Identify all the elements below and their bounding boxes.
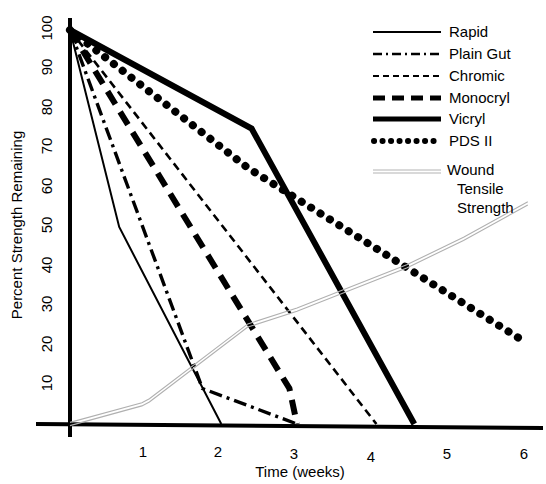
x-tick-label: 3 [290, 445, 298, 462]
x-axis-line [36, 424, 543, 428]
legend-item-wound-tensile-strength: Wound Tensile Strength [373, 161, 514, 216]
chart-container: 100 90 80 70 60 50 40 30 20 10 Percent S… [0, 0, 546, 484]
legend-item-pds-ii: PDS II [374, 132, 492, 149]
legend-item-plain-gut: Plain Gut [373, 45, 512, 62]
legend-label: PDS II [449, 132, 492, 149]
legend-item-vicryl: Vicryl [373, 110, 485, 127]
series-line [70, 30, 376, 424]
x-tick-label: 5 [443, 445, 451, 462]
legend-item-monocryl: Monocryl [373, 89, 510, 106]
x-axis-title: Time (weeks) [255, 463, 344, 480]
y-tick-labels: 100 90 80 70 60 50 40 30 20 10 [38, 15, 55, 391]
y-tick-label: 80 [38, 99, 55, 116]
legend-label-line1: Wound [447, 161, 494, 178]
x-tick-label: 6 [520, 445, 528, 462]
y-tick-label: 10 [38, 375, 55, 392]
series-wound-tensile-strength [70, 202, 528, 426]
legend-label: Chromic [449, 67, 505, 84]
series-vicryl [70, 30, 414, 424]
legend-label: Vicryl [449, 110, 485, 127]
series-chromic [70, 30, 376, 424]
legend-label: Plain Gut [449, 45, 512, 62]
y-tick-label: 100 [38, 15, 55, 40]
legend-label-line3: Strength [457, 199, 514, 216]
y-tick-label: 60 [38, 178, 55, 195]
suture-tensile-strength-chart: 100 90 80 70 60 50 40 30 20 10 Percent S… [0, 0, 546, 484]
series-line [70, 205, 528, 426]
legend-item-rapid: Rapid [373, 23, 488, 40]
y-tick-label: 20 [38, 336, 55, 353]
series-line [70, 30, 414, 424]
x-tick-label: 2 [214, 443, 222, 460]
y-tick-label: 40 [38, 257, 55, 274]
legend: Rapid Plain Gut Chromic Monocryl Vicryl … [373, 23, 514, 216]
legend-label: Monocryl [449, 89, 510, 106]
y-tick-label: 70 [38, 138, 55, 155]
legend-label: Rapid [449, 23, 488, 40]
x-tick-label: 4 [367, 448, 375, 465]
x-tick-labels: 1 2 3 4 5 6 [139, 443, 528, 465]
y-tick-label: 90 [38, 59, 55, 76]
legend-label-line2: Tensile [457, 180, 504, 197]
series-line [70, 202, 528, 423]
y-tick-label: 50 [38, 217, 55, 234]
y-tick-label: 30 [38, 296, 55, 313]
x-tick-label: 1 [139, 443, 147, 460]
legend-item-chromic: Chromic [373, 67, 505, 84]
y-axis-title: Percent Strength Remaining [8, 131, 25, 319]
